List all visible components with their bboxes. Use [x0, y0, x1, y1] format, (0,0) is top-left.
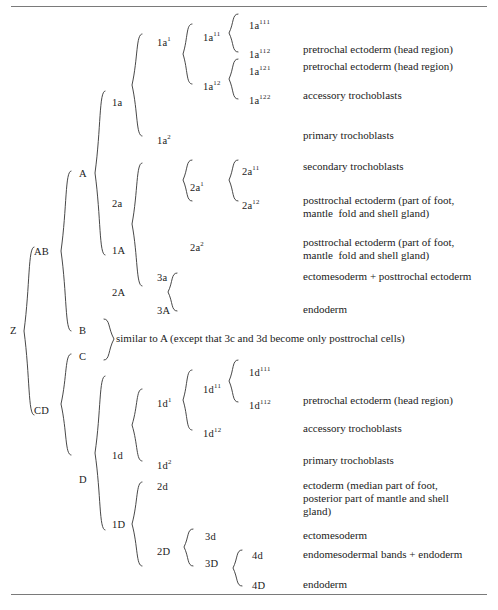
desc-2a12: posttrochal ectoderm (part of foot, mant… [303, 194, 454, 220]
node-1d-111: 1d111 [249, 363, 271, 378]
brace-1d11 [228, 359, 239, 403]
brace-1a12 [228, 58, 239, 100]
node-1d-12: 1d12 [203, 424, 222, 439]
node-2a: 2a [112, 198, 122, 209]
node-1a-12: 1a12 [203, 77, 221, 92]
desc-3a: ectomesoderm + posttrochal ectoderm [303, 270, 471, 283]
node-1a-121: 1a121 [249, 62, 271, 77]
node-z: Z [10, 325, 17, 336]
node-a: A [79, 168, 87, 179]
node-1a-1: 1a1 [157, 33, 171, 48]
node-3d: 3d [205, 531, 216, 542]
node-1a-112: 1a112 [249, 45, 270, 60]
brace-1d [131, 388, 143, 462]
brace-2D [183, 528, 194, 567]
node-1d: 1d [112, 450, 123, 461]
top-rule [11, 6, 487, 7]
node-1A: 1A [112, 245, 125, 256]
node-cd: CD [34, 405, 49, 416]
brace-cd [60, 353, 72, 456]
desc-1a122: accessory trochoblasts [303, 89, 402, 102]
desc-2a11: secondary trochoblasts [303, 160, 404, 173]
node-b: B [79, 325, 86, 336]
desc-2d: ectoderm (median part of foot, posterior… [303, 479, 449, 518]
desc-2a2: posttrochal ectoderm (part of foot, mant… [303, 236, 454, 262]
node-4d: 4d [252, 550, 263, 561]
brace-1d1 [182, 369, 193, 431]
brace-1A [131, 162, 143, 287]
node-2a-11: 2a11 [242, 162, 260, 177]
node-1a: 1a [112, 97, 122, 108]
node-3D: 3D [205, 558, 218, 569]
node-2A: 2A [112, 287, 125, 298]
node-ab: AB [34, 246, 49, 257]
node-1d-11: 1d11 [203, 380, 221, 395]
desc-3A: endoderm [303, 303, 347, 316]
brace-z [23, 246, 35, 416]
node-1d-2: 1d2 [157, 456, 172, 471]
bottom-rule [11, 594, 487, 595]
node-d: D [79, 474, 87, 485]
node-1a-2: 1a2 [157, 131, 171, 146]
cell-lineage-diagram: Z AB CD A B C D 1A 2A 1D 1a 2a 1d 1a1 1a… [0, 0, 498, 610]
brace-3D [232, 549, 243, 587]
desc-3d: ectomesoderm [303, 529, 367, 542]
node-1d-1: 1d1 [157, 394, 172, 409]
node-2a-2: 2a2 [190, 238, 204, 253]
brace-ab [60, 170, 72, 332]
desc-1a112: pretrochal ectoderm (head region) [303, 43, 453, 56]
desc-4D: endoderm [303, 578, 347, 591]
desc-1d2: primary trochoblasts [303, 454, 394, 467]
node-2a-1: 2a1 [190, 178, 204, 193]
brace-2a-inner [228, 159, 239, 202]
desc-4d: endomesodermal bands + endoderm [303, 548, 462, 561]
node-1D: 1D [112, 519, 125, 530]
desc-1a121: pretrochal ectoderm (head region) [303, 60, 453, 73]
node-1a-111: 1a111 [249, 16, 270, 31]
brace-a [94, 90, 106, 256]
node-2D: 2D [157, 546, 170, 557]
node-4D: 4D [252, 580, 265, 591]
node-3A: 3A [157, 305, 170, 316]
desc-1d12: accessory trochoblasts [303, 422, 402, 435]
node-2a-12: 2a12 [242, 196, 260, 211]
node-1d-112: 1d112 [249, 396, 271, 411]
brace-d [94, 375, 106, 531]
brace-1a1 [182, 23, 193, 85]
desc-1a2: primary trochoblasts [303, 129, 394, 142]
node-1a-122: 1a122 [249, 91, 271, 106]
brace-1D [131, 481, 143, 567]
node-2d: 2d [157, 481, 168, 492]
node-1a-11: 1a11 [203, 28, 221, 43]
brace-bc [103, 318, 114, 361]
node-c: C [79, 351, 86, 362]
desc-1d112: pretrochal ectoderm (head region) [303, 394, 453, 407]
brace-1a [131, 33, 143, 137]
note-similar-to-a: similar to A (except that 3c and 3d beco… [116, 332, 405, 345]
brace-1a11 [228, 13, 239, 53]
node-3a: 3a [157, 272, 167, 283]
